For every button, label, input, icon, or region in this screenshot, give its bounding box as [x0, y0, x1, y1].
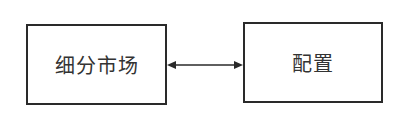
node-configuration-label: 配置 [292, 48, 334, 77]
node-market-segment: 细分市场 [26, 24, 167, 105]
node-market-segment-label: 细分市场 [55, 50, 139, 79]
bidirectional-arrow-icon [167, 57, 243, 73]
node-configuration: 配置 [243, 22, 383, 103]
